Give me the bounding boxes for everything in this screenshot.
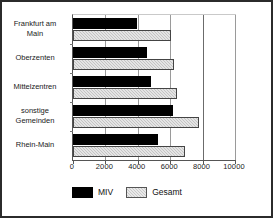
category-label-2: Mittelzentren (4, 82, 66, 92)
bar-gesamt-2 (73, 88, 177, 99)
x-tick-label-6000: 6000 (161, 162, 178, 171)
chart-legend: MIV Gesamt (72, 183, 234, 201)
category-label-0: Frankfurt am Main (4, 19, 66, 38)
x-tick-label-10000: 10000 (223, 162, 244, 171)
x-tick-label-0: 0 (70, 162, 74, 171)
category-divider-1 (70, 44, 73, 45)
category-label-3: sonstige Gemeinden (4, 106, 66, 125)
legend-item-gesamt: Gesamt (126, 187, 182, 198)
x-tick-label-2000: 2000 (96, 162, 113, 171)
legend-swatch-gesamt (126, 187, 147, 198)
gridline-8000 (203, 15, 204, 160)
category-label-4: Rhein-Main (4, 140, 66, 150)
bar-miv-0 (73, 18, 137, 29)
bar-gesamt-4 (73, 146, 185, 157)
category-divider-3 (70, 102, 73, 103)
bar-gesamt-3 (73, 117, 199, 128)
bar-gesamt-0 (73, 30, 171, 41)
plot-area (72, 14, 236, 161)
x-tick-label-4000: 4000 (128, 162, 145, 171)
legend-item-miv: MIV (72, 187, 113, 198)
category-label-1: Oberzenten (4, 53, 66, 63)
chart-figure: 0200040006000800010000 Frankfurt am Main… (0, 0, 273, 218)
category-divider-4 (70, 131, 73, 132)
legend-label-miv: MIV (98, 187, 113, 197)
category-divider-2 (70, 73, 73, 74)
legend-label-gesamt: Gesamt (152, 187, 182, 197)
bar-gesamt-1 (73, 59, 174, 70)
x-tick-label-8000: 8000 (193, 162, 210, 171)
bar-miv-1 (73, 47, 147, 58)
bar-miv-3 (73, 105, 173, 116)
gridline-10000 (235, 15, 236, 160)
legend-swatch-miv (72, 187, 93, 198)
bar-miv-2 (73, 76, 151, 87)
bar-miv-4 (73, 134, 158, 145)
